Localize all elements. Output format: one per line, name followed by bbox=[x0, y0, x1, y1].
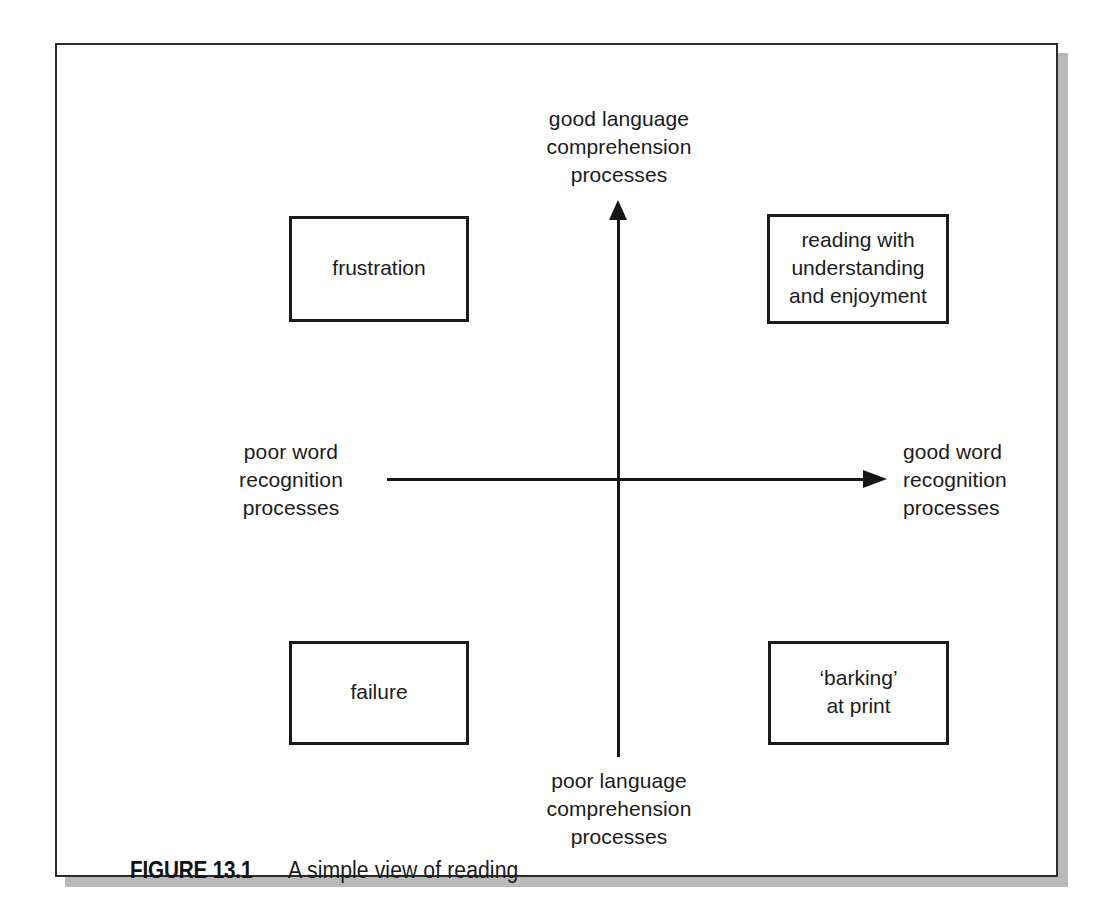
quadrant-box-top-right: reading with understanding and enjoyment bbox=[767, 214, 949, 324]
x-axis-high-label: good word recognition processes bbox=[903, 438, 1093, 522]
y-axis-low-label: poor language comprehension processes bbox=[504, 767, 734, 851]
quadrant-label-frustration: frustration bbox=[332, 254, 425, 282]
x-axis-low-label: poor word recognition processes bbox=[197, 438, 385, 522]
vertical-axis-line bbox=[617, 213, 620, 757]
figure-caption: FIGURE 13.1 A simple view of reading bbox=[130, 857, 538, 884]
horizontal-axis-line bbox=[387, 478, 875, 481]
vertical-axis-arrowhead-icon bbox=[609, 200, 627, 220]
figure-frame: good language comprehension processes po… bbox=[55, 43, 1058, 877]
quadrant-label-failure: failure bbox=[350, 678, 407, 706]
quadrant-box-bottom-left: failure bbox=[289, 641, 469, 745]
figure-caption-text: A simple view of reading bbox=[288, 857, 518, 884]
horizontal-axis-arrowhead-icon bbox=[863, 470, 887, 488]
quadrant-box-top-left: frustration bbox=[289, 216, 469, 322]
quadrant-label-barking-at-print: ‘barking’ at print bbox=[819, 664, 897, 720]
figure-caption-label: FIGURE 13.1 bbox=[130, 857, 252, 884]
quadrant-box-bottom-right: ‘barking’ at print bbox=[768, 641, 949, 745]
quadrant-label-reading-with-understanding: reading with understanding and enjoyment bbox=[789, 226, 927, 310]
y-axis-high-label: good language comprehension processes bbox=[489, 105, 749, 189]
